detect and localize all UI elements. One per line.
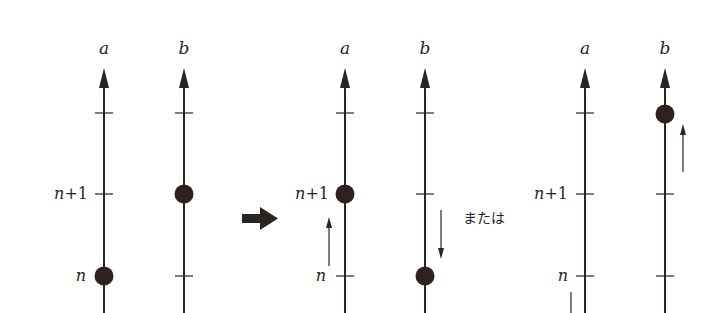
particle-dot [416,267,435,286]
axis-label-b: b [179,38,190,58]
arrowhead-icon [420,68,430,88]
right-arrow-icon [242,207,278,230]
axis-a: a [336,38,355,313]
level-label-n: n [76,266,86,285]
panel-after-option-1: a n+1 n b または [295,38,505,313]
arrowhead-icon [340,68,350,88]
particle-dot [95,267,114,286]
panel-after-option-2: a n+1 n b [534,38,686,313]
arrowhead-icon [179,68,189,88]
particle-dot [175,185,194,204]
axis-a: a [576,38,594,313]
or-label: または [463,210,505,226]
arrowhead-icon [660,68,670,88]
panel-before: a n+1 n b [54,38,193,313]
up-arrow-icon [680,124,686,172]
axis-a: a [95,38,114,313]
level-label-n: n [316,266,326,285]
down-arrow-icon [438,210,444,259]
level-label-n: n [558,266,568,285]
axis-label-b: b [420,38,431,58]
arrowhead-icon [580,68,590,88]
level-label-n-plus-1: n+1 [54,184,88,203]
level-transition-diagram: a n+1 n b a [0,0,717,313]
up-arrow-icon [326,217,332,266]
level-label-n-plus-1: n+1 [534,184,568,203]
particle-dot [656,105,675,124]
axis-b: b [416,38,435,313]
axis-b: b [175,38,194,313]
axis-label-b: b [660,38,671,58]
level-label-n-plus-1: n+1 [295,184,329,203]
axis-b: b [656,38,675,313]
particle-dot [336,185,355,204]
axis-label-a: a [580,38,590,58]
arrowhead-icon [99,68,109,88]
axis-label-a: a [99,38,109,58]
axis-label-a: a [340,38,350,58]
